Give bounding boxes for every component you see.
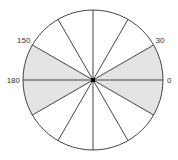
center-dot bbox=[91, 78, 95, 82]
angle-label-30: 30 bbox=[156, 36, 165, 45]
circle-diagram: 030150180 bbox=[0, 0, 178, 160]
angle-label-0: 0 bbox=[167, 76, 172, 85]
angle-label-150: 150 bbox=[17, 36, 31, 45]
angle-label-180: 180 bbox=[7, 76, 21, 85]
